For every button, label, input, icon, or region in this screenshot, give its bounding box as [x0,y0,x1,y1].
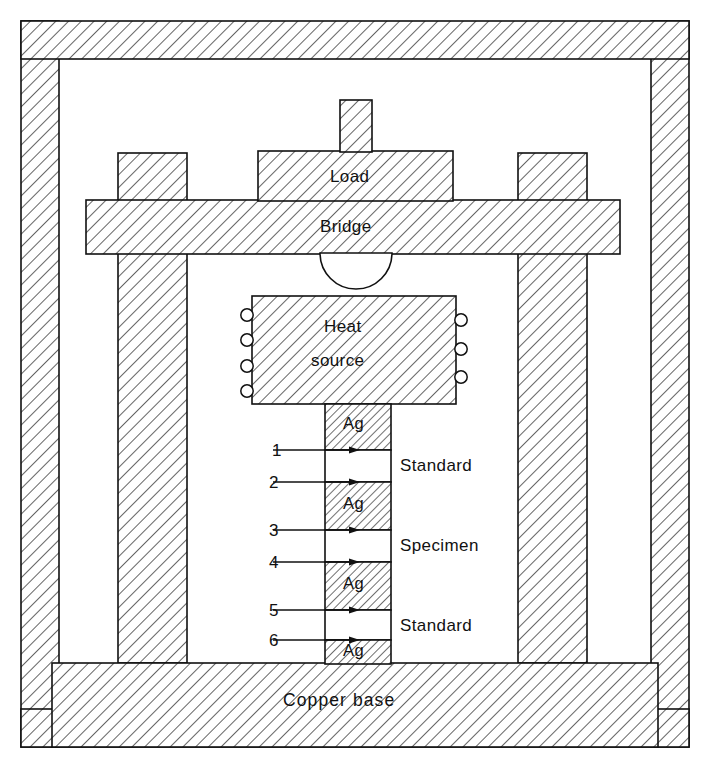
enclosure-right-wall [651,21,689,747]
silver-disc-3-label: Ag [343,575,364,592]
thermocouple-number-1: 1 [272,442,282,459]
copper-base-label: Copper base [283,692,395,710]
heat-source-block [252,296,456,404]
load-label: Load [330,168,369,185]
thermocouple-number-6: 6 [269,632,279,649]
silver-disc-1-label: Ag [343,415,364,432]
silver-disc-2-label: Ag [343,495,364,512]
bridge-label: Bridge [320,218,372,235]
heat-source-label-line1: Heat [324,318,362,335]
thermocouple-number-2: 2 [269,474,279,491]
specimen-block [325,530,391,562]
heater-coil-terminals-right [455,314,467,383]
thermocouple-number-5: 5 [269,602,279,619]
standard-lower-block [325,610,391,640]
specimen-label: Specimen [400,537,479,554]
silver-disc-4-label: Ag [343,642,364,659]
figure-root: Load Bridge Heat source Ag Ag Ag Ag Stan… [0,0,710,768]
thermocouple-number-3: 3 [269,522,279,539]
enclosure-top-wall [21,21,689,59]
load-rod [340,100,372,152]
standard-upper-block [325,450,391,482]
pivot-ball [320,253,392,289]
standard-upper-label: Standard [400,457,472,474]
thermocouple-number-4: 4 [269,554,279,571]
heat-source-label-line2: source [311,352,364,369]
standard-lower-label: Standard [400,617,472,634]
enclosure-left-wall [21,21,59,747]
